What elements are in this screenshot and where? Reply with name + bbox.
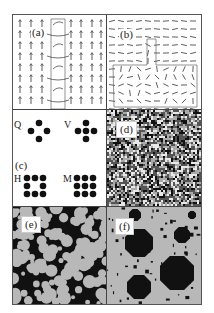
panel-e: (e) bbox=[13, 207, 107, 304]
panel-label-e: (e) bbox=[21, 216, 41, 233]
pattern-letter-m: M bbox=[63, 174, 72, 184]
panel-label-d: (d) bbox=[116, 121, 137, 138]
panel-b: (b) bbox=[107, 15, 201, 110]
pattern-letter-q: Q bbox=[14, 120, 21, 130]
panel-label-c: (c) bbox=[15, 160, 27, 171]
pattern-letter-h: H bbox=[14, 174, 21, 184]
panel-f: (f) bbox=[107, 207, 201, 304]
arrow-field-diagram bbox=[13, 15, 107, 110]
panel-a: (a) bbox=[13, 15, 107, 110]
panel-c: Q V (c) H M bbox=[13, 110, 107, 207]
panel-label-b: (b) bbox=[119, 29, 134, 40]
pattern-letter-v: V bbox=[64, 120, 71, 130]
dot-patterns-diagram bbox=[13, 110, 107, 207]
panel-label-a: (a) bbox=[31, 27, 45, 38]
panel-label-f: (f) bbox=[115, 218, 134, 235]
figure: (a) (b) Q V (c) H M (d) (e) (f) bbox=[12, 14, 202, 305]
panel-d: (d) bbox=[107, 110, 201, 207]
